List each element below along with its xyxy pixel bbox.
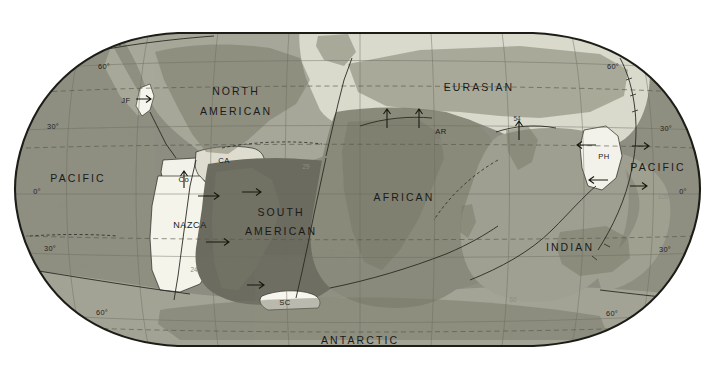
rate-atl-29: 29 <box>302 163 310 170</box>
rate-sa-77: 77 <box>348 259 356 266</box>
rate-nazca-24: 24 <box>190 266 198 273</box>
rate-pac-90: 90 <box>58 202 66 209</box>
lat-label-right-2: 0° <box>679 187 686 196</box>
rate-indian-54: 54 <box>513 115 521 122</box>
lat-label-right-0: 60° <box>607 62 619 71</box>
world-tectonic-plates-map: PACIFICPACIFICNORTHAMERICANSOUTHAMERICAN… <box>0 0 721 378</box>
lat-label-right-1: 30° <box>660 124 672 133</box>
map-body <box>0 0 721 378</box>
rate-pac-50: 50 <box>81 262 89 269</box>
rate-pac-70: 70 <box>126 131 134 138</box>
rate-arabian-16: 16 <box>434 138 442 145</box>
lat-label-left-4: 60° <box>96 308 108 317</box>
lat-label-right-4: 60° <box>606 309 618 318</box>
map-canvas: PACIFICPACIFICNORTHAMERICANSOUTHAMERICAN… <box>0 0 721 378</box>
lat-label-left-2: 0° <box>33 187 40 196</box>
rate-pac-105: 105 <box>658 193 669 200</box>
rate-ind-60: 60 <box>509 296 517 303</box>
lat-label-left-1: 30° <box>47 122 59 131</box>
lat-label-left-0: 60° <box>98 62 110 71</box>
lat-label-right-3: 30° <box>659 245 671 254</box>
lat-label-left-3: 30° <box>44 244 56 253</box>
